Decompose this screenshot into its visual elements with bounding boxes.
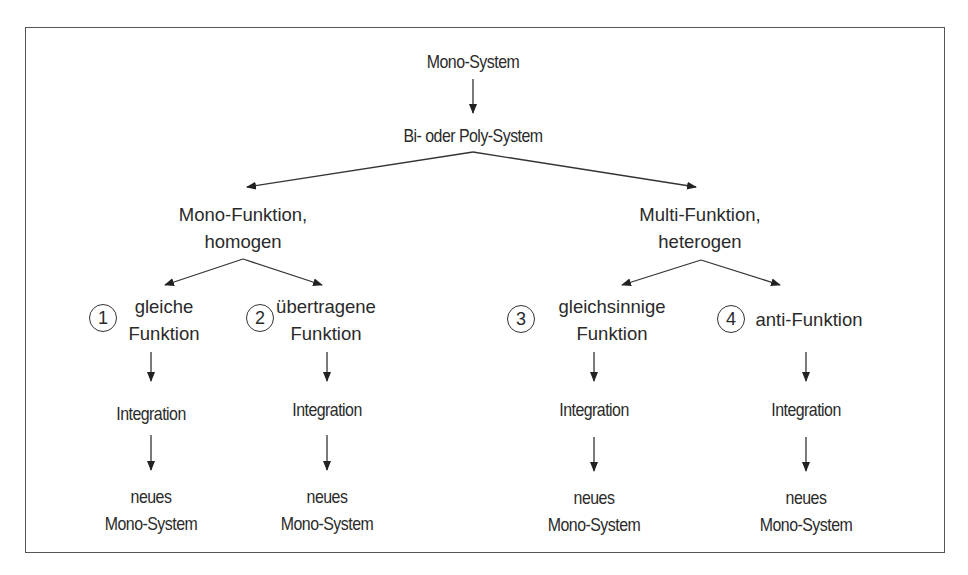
arrow-to-3 [622,260,701,285]
node-multi-funktion: Multi-Funktion, heterogen [639,201,760,255]
node-gleiche-funktion: gleiche Funktion [129,293,200,347]
circle-number-1: 1 [89,304,117,332]
node-gleichsinnige-funktion: gleichsinnige Funktion [559,293,666,347]
node-neues-mono-system-2: neues Mono-System [281,483,373,537]
arrow-to-2 [243,259,322,285]
node-integration-4: Integration [771,396,841,423]
node-neues-mono-system-3: neues Mono-System [548,484,640,538]
circle-number-4: 4 [717,305,745,333]
circle-number-2: 2 [246,304,274,332]
node-anti-funktion: anti-Funktion [756,306,863,333]
arrow-to-multi-funktion [473,152,696,187]
node-mono-system: Mono-System [427,48,519,75]
node-uebertragene-funktion: übertragene Funktion [276,293,376,347]
node-mono-funktion: Mono-Funktion, homogen [179,201,308,255]
arrow-to-4 [701,260,780,285]
node-integration-3: Integration [559,396,629,423]
node-neues-mono-system-4: neues Mono-System [760,484,852,538]
circle-number-3: 3 [507,305,535,333]
arrow-to-mono-funktion [247,152,473,187]
node-neues-mono-system-1: neues Mono-System [105,483,197,537]
arrow-to-1 [165,259,243,285]
node-integration-2: Integration [292,396,362,423]
node-bi-poly-system: Bi- oder Poly-System [403,122,542,149]
node-integration-1: Integration [116,400,186,427]
